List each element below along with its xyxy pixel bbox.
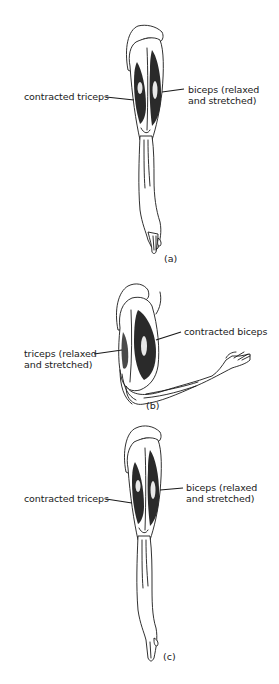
label-triceps-relaxed-b: triceps (relaxed and stretched) bbox=[24, 348, 97, 370]
figure-b: contracted biceps triceps (relaxed and s… bbox=[0, 270, 279, 420]
upper-arm-a bbox=[126, 25, 163, 140]
extended-arm-illustration-c bbox=[0, 420, 279, 684]
leader-triceps-b bbox=[94, 350, 122, 354]
caption-a: (a) bbox=[164, 253, 177, 264]
upper-arm-b bbox=[116, 284, 160, 391]
label-biceps-relaxed-c: biceps (relaxed and stretched) bbox=[186, 482, 257, 504]
leader-triceps-c bbox=[106, 499, 132, 503]
forearm-c bbox=[137, 528, 158, 661]
forearm-a bbox=[139, 128, 161, 254]
leader-biceps-a bbox=[162, 89, 184, 92]
extended-arm-illustration-a bbox=[0, 0, 279, 270]
flexed-arm-illustration-b bbox=[0, 270, 279, 420]
caption-b: (b) bbox=[146, 400, 159, 411]
leader-biceps-b bbox=[156, 332, 181, 340]
label-contracted-biceps-b: contracted biceps bbox=[184, 326, 267, 337]
leader-biceps-c bbox=[160, 488, 183, 490]
caption-c: (c) bbox=[163, 651, 176, 662]
upper-arm-c bbox=[124, 426, 161, 540]
leader-triceps-a bbox=[106, 97, 134, 100]
label-contracted-triceps-a: contracted triceps bbox=[24, 91, 109, 102]
figure-c: contracted triceps biceps (relaxed and s… bbox=[0, 420, 279, 684]
label-contracted-triceps-c: contracted triceps bbox=[24, 493, 109, 504]
label-biceps-relaxed-a: biceps (relaxed and stretched) bbox=[188, 84, 259, 106]
figure-a: contracted triceps biceps (relaxed and s… bbox=[0, 0, 279, 270]
